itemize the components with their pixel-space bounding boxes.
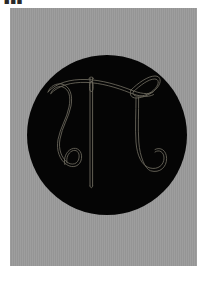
black-circle-field — [27, 55, 187, 215]
artwork-canvas: ■■■ — [0, 0, 215, 282]
artwork-svg — [0, 0, 215, 282]
